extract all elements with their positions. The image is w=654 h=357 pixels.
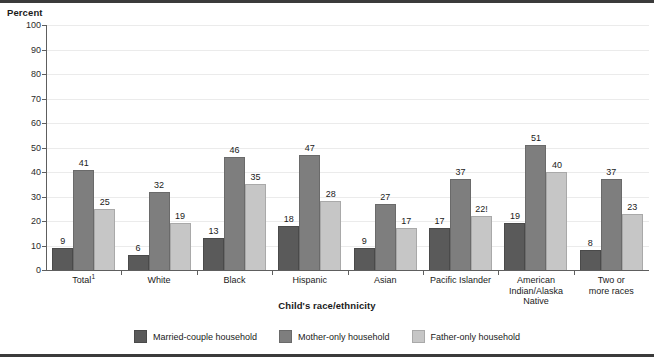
bar-slot: 18 (278, 25, 299, 270)
x-axis-category-label: Asian (348, 275, 423, 286)
bar-slot: 6 (128, 25, 149, 270)
bar-value-label: 17 (401, 216, 411, 226)
bar-group: 83723 (574, 25, 649, 270)
bar[interactable] (52, 248, 73, 270)
bar-group: 195140 (498, 25, 573, 270)
bar[interactable] (375, 204, 396, 270)
bar-slot: 46 (224, 25, 245, 270)
bar-slot: 17 (396, 25, 417, 270)
bar-slot: 19 (170, 25, 191, 270)
bar-value-label: 28 (326, 189, 336, 199)
bar-value-label: 37 (456, 167, 466, 177)
x-axis-title: Child's race/ethnicity (0, 300, 654, 311)
bar[interactable] (128, 255, 149, 270)
x-axis-category-label: White (121, 275, 196, 286)
bar-group-bars: 195140 (498, 25, 573, 270)
bar-group: 173722! (423, 25, 498, 270)
bar[interactable] (203, 238, 224, 270)
bar-value-label: 17 (435, 216, 445, 226)
bar-slot: 13 (203, 25, 224, 270)
x-axis-category-label: Pacific Islander (423, 275, 498, 286)
bar[interactable] (601, 179, 622, 270)
bar-slot: 32 (149, 25, 170, 270)
bar[interactable] (471, 216, 492, 270)
bar-slot: 35 (245, 25, 266, 270)
bar[interactable] (429, 228, 450, 270)
bar-value-label: 13 (208, 226, 218, 236)
figure-container: Percent 0102030405060708090100 941256321… (0, 0, 654, 357)
bar[interactable] (622, 214, 643, 270)
bar-value-label: 8 (588, 238, 593, 248)
bar-slot: 28 (320, 25, 341, 270)
legend-label: Married-couple household (153, 332, 257, 342)
bar[interactable] (278, 226, 299, 270)
legend-label: Father-only household (431, 332, 521, 342)
bar-slot: 19 (504, 25, 525, 270)
bar-slot: 27 (375, 25, 396, 270)
bar[interactable] (396, 228, 417, 270)
bar-group: 94125 (46, 25, 121, 270)
chart-legend: Married-couple householdMother-only hous… (0, 330, 654, 343)
bar[interactable] (149, 192, 170, 270)
y-axis-title: Percent (7, 7, 43, 18)
x-axis-category-label: Two or more races (574, 275, 649, 296)
bar-slot: 22! (471, 25, 492, 270)
bar[interactable] (320, 201, 341, 270)
bar-group-bars: 184728 (272, 25, 347, 270)
bar[interactable] (94, 209, 115, 270)
bar-slot: 37 (601, 25, 622, 270)
bar[interactable] (224, 157, 245, 270)
bar-value-label: 25 (100, 197, 110, 207)
y-axis-tick-label: 60 (11, 118, 41, 128)
bar-value-label: 27 (380, 192, 390, 202)
legend-swatch-icon (134, 330, 147, 343)
top-divider-rule (0, 0, 654, 3)
bar[interactable] (299, 155, 320, 270)
bar-slot: 17 (429, 25, 450, 270)
bar[interactable] (170, 223, 191, 270)
y-axis-tick-label: 50 (11, 143, 41, 153)
bar-slot: 8 (580, 25, 601, 270)
y-axis-tick-label: 90 (11, 45, 41, 55)
bar[interactable] (450, 179, 471, 270)
bar-slot: 25 (94, 25, 115, 270)
bar-group-bars: 94125 (46, 25, 121, 270)
legend-swatch-icon (412, 330, 425, 343)
bar-group-bars: 83723 (574, 25, 649, 270)
bar-value-label: 9 (362, 236, 367, 246)
bar-value-label: 19 (175, 211, 185, 221)
bar-group-bars: 63219 (121, 25, 196, 270)
bar[interactable] (245, 184, 266, 270)
x-axis-category-label: Total1 (46, 275, 121, 286)
y-axis-tick-label: 100 (11, 20, 41, 30)
legend-item[interactable]: Mother-only household (279, 330, 390, 343)
bar[interactable] (504, 223, 525, 270)
y-axis-tick-label: 0 (11, 265, 41, 275)
x-axis-category-label: Hispanic (272, 275, 347, 286)
bar-value-label: 40 (552, 160, 562, 170)
bar-value-label: 46 (229, 145, 239, 155)
bar-slot: 40 (546, 25, 567, 270)
bar-value-label: 18 (284, 214, 294, 224)
bar-group-bars: 134635 (197, 25, 272, 270)
plot-area: 0102030405060708090100 94125632191346351… (46, 25, 649, 271)
legend-item[interactable]: Married-couple household (134, 330, 257, 343)
bar-value-label: 41 (79, 158, 89, 168)
legend-item[interactable]: Father-only household (412, 330, 521, 343)
bar-group: 184728 (272, 25, 347, 270)
bar-value-label: 51 (531, 133, 541, 143)
bar[interactable] (525, 145, 546, 270)
bar[interactable] (354, 248, 375, 270)
bar[interactable] (73, 170, 94, 270)
bar[interactable] (580, 250, 601, 270)
bar-value-label: 9 (60, 236, 65, 246)
bar-value-label: 47 (305, 143, 315, 153)
bar-slot: 9 (354, 25, 375, 270)
bar-slot: 47 (299, 25, 320, 270)
bar-value-label: 19 (510, 211, 520, 221)
x-axis-category-label: Black (197, 275, 272, 286)
bar[interactable] (546, 172, 567, 270)
bar-value-label: 23 (627, 202, 637, 212)
bar-slot: 23 (622, 25, 643, 270)
bar-value-label: 35 (250, 172, 260, 182)
